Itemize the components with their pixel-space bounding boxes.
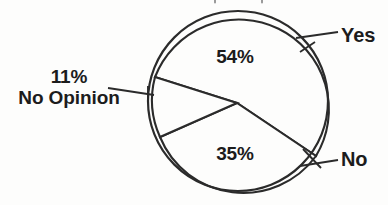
pie-chart-figure: 54% 35% Yes No 11% No Opinion xyxy=(0,0,388,205)
pie-callout-label-no: No xyxy=(341,148,367,170)
pie-callout-group-no-opinion: 11% No Opinion xyxy=(2,66,136,109)
pie-callout-label-no-opinion: No Opinion xyxy=(2,87,136,108)
pie-callout-label-yes: Yes xyxy=(341,24,375,46)
pie-data-label-yes: 54% xyxy=(196,46,274,67)
pie-data-label-no-opinion: 11% xyxy=(2,66,136,87)
cropped-title-remnant-icon xyxy=(215,0,262,2)
pie-data-label-no: 35% xyxy=(196,143,274,164)
